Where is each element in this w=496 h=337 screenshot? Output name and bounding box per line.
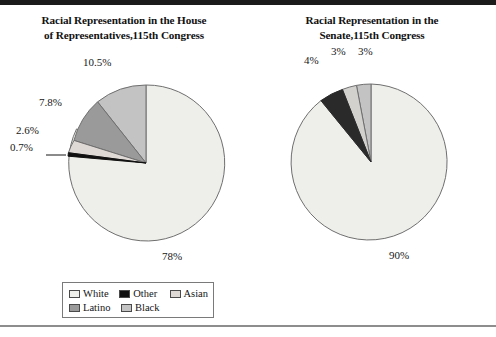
house-label-other: 0.7% (10, 141, 33, 153)
house-legend-item-other: Other (119, 288, 169, 300)
senate-label-black: 3% (358, 45, 373, 57)
house-pie-svg (0, 0, 248, 280)
figure-container: Racial Representation in the House of Re… (0, 0, 496, 337)
house-legend-item-asian: Asian (170, 288, 209, 300)
house-legend-swatch-other (119, 290, 130, 298)
house-pie-chart (0, 0, 248, 280)
house-label-white: 78% (162, 250, 182, 262)
house-legend-label-latino: Latino (83, 302, 110, 314)
house-legend-label-white: White (83, 288, 109, 300)
house-legend-row-1: White Other Asian (69, 287, 208, 301)
senate-label-asian: 3% (331, 45, 346, 57)
house-legend-item-latino: Latino (69, 302, 121, 314)
house-legend-swatch-white (69, 290, 80, 298)
house-legend-item-black: Black (121, 302, 173, 314)
house-legend-swatch-latino (69, 304, 80, 312)
house-legend-row-2: Latino Black (69, 301, 208, 315)
house-label-black: 10.5% (83, 56, 111, 68)
house-chart-panel: Racial Representation in the House of Re… (0, 0, 248, 337)
house-legend-item-white: White (69, 288, 119, 300)
senate-label-white: 90% (389, 249, 409, 261)
senate-chart-panel: Racial Representation in the Senate,115t… (248, 0, 496, 337)
house-legend-label-other: Other (133, 288, 157, 300)
house-legend-swatch-asian (170, 290, 181, 298)
house-legend: White Other Asian Latino Black (62, 282, 214, 318)
senate-pie-chart (248, 0, 496, 280)
house-legend-label-black: Black (135, 302, 160, 314)
senate-label-hispanic: 4% (304, 54, 319, 66)
house-label-asian: 2.6% (16, 124, 39, 136)
house-legend-label-asian: Asian (184, 288, 209, 300)
house-legend-swatch-black (121, 304, 132, 312)
senate-pie-svg (248, 0, 496, 280)
house-label-latino: 7.8% (39, 96, 62, 108)
